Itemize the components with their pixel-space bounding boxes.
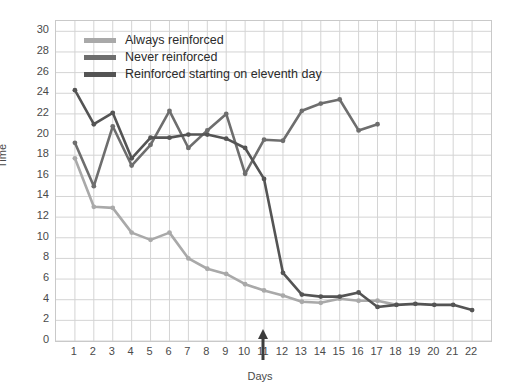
series-point [186,256,191,261]
series-point [299,108,304,113]
y-tick-label: 0 [19,334,49,345]
series-point [167,108,172,113]
legend: Always reinforced Never reinforced Reinf… [84,33,322,84]
y-tick-label: 10 [19,231,49,242]
legend-label-never-reinforced: Never reinforced [125,50,217,65]
y-tick-label: 18 [19,148,49,159]
series-line-2 [75,90,472,310]
series-point [129,156,134,161]
series-point [186,132,191,137]
line-chart: 024681012141618202224262830 123456789101… [0,0,520,392]
series-point [243,146,248,151]
y-tick-label: 14 [19,189,49,200]
series-point [337,97,342,102]
series-point [148,135,153,140]
legend-swatch-reinforced-eleventh-day [84,72,116,77]
series-point [394,302,399,307]
series-point [224,136,229,141]
series-point [262,137,267,142]
series-point [262,177,267,182]
y-tick-label: 2 [19,313,49,324]
x-axis-label: Days [0,370,520,382]
legend-item: Always reinforced [84,33,322,48]
series-point [281,293,286,298]
y-tick-label: 24 [19,86,49,97]
series-point [110,124,115,129]
series-point [205,128,210,133]
series-point [262,288,267,293]
y-tick-label: 26 [19,66,49,77]
series-point [413,301,418,306]
y-tick-label: 22 [19,107,49,118]
series-point [167,230,172,235]
series-point [129,230,134,235]
legend-label-always-reinforced: Always reinforced [125,33,224,48]
y-tick-label: 16 [19,169,49,180]
series-point [91,122,96,127]
legend-swatch-never-reinforced [84,55,116,60]
legend-swatch-always-reinforced [84,38,116,43]
series-point [224,112,229,117]
series-point [337,294,342,299]
series-point [224,272,229,277]
series-point [205,266,210,271]
y-tick-label: 8 [19,251,49,262]
y-tick-label: 12 [19,210,49,221]
series-point [470,308,475,313]
series-line-0 [75,158,397,305]
legend-item: Never reinforced [84,50,322,65]
series-point [375,298,380,303]
y-tick-label: 28 [19,45,49,56]
series-point [73,88,78,93]
series-point [451,302,456,307]
series-point [110,110,115,115]
series-point [356,128,361,133]
series-point [148,142,153,147]
series-point [299,299,304,304]
series-point [148,237,153,242]
series-point [318,101,323,106]
series-point [299,292,304,297]
series-point [73,140,78,145]
series-point [281,138,286,143]
y-tick-label: 20 [19,128,49,139]
y-tick-label: 6 [19,272,49,283]
y-tick-label: 30 [19,24,49,35]
legend-item: Reinforced starting on eleventh day [84,67,322,82]
series-point [73,156,78,161]
series-point [318,300,323,305]
series-point [375,305,380,310]
y-tick-label: 4 [19,293,49,304]
series-point [129,163,134,168]
series-point [281,270,286,275]
series-point [167,135,172,140]
series-point [375,122,380,127]
legend-label-reinforced-eleventh-day: Reinforced starting on eleventh day [125,67,322,82]
series-point [318,294,323,299]
series-point [91,184,96,189]
series-point [243,171,248,176]
y-axis-label: Time [0,144,8,168]
x-tick-label: 22 [459,346,483,357]
series-point [356,290,361,295]
series-point [356,298,361,303]
series-point [432,302,437,307]
series-point [110,205,115,210]
series-point [91,204,96,209]
day-11-arrow [255,328,271,362]
series-point [243,282,248,287]
series-point [205,132,210,137]
series-point [186,146,191,151]
